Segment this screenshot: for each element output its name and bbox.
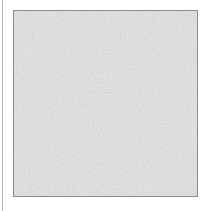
texture-fill (14, 11, 197, 196)
left-edge-rule (2, 0, 3, 211)
gray-noise-texture-image (14, 11, 197, 196)
texture-image-frame (13, 10, 198, 197)
page (0, 0, 213, 211)
